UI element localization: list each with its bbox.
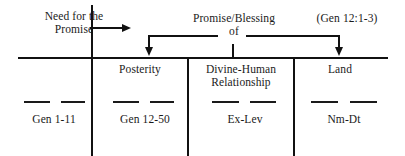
label-gen-12-1-3-reference: (Gen 12:1-3) <box>306 12 388 25</box>
dash-col-3-left <box>212 101 239 103</box>
arrow-to-land-head <box>335 47 343 56</box>
dash-col-4-left <box>311 101 338 103</box>
column-code-ex-lev: Ex-Lev <box>204 113 286 126</box>
column-heading-land: Land <box>310 63 370 76</box>
dash-col-1-left <box>24 101 50 103</box>
column-heading-divine-human-relationship: Divine-Human Relationship <box>192 63 290 89</box>
column-code-nm-dt: Nm-Dt <box>304 113 384 126</box>
main-horizontal-axis <box>18 57 388 59</box>
promise-structure-diagram: Need for the Promise Promise/Blessing of… <box>0 0 405 156</box>
dash-col-3-right <box>250 101 276 103</box>
arrow-to-posterity-shaft-horizontal <box>148 35 218 37</box>
column-code-gen-12-50: Gen 12-50 <box>104 113 186 126</box>
column-code-gen-1-11: Gen 1-11 <box>16 113 92 126</box>
arrow-to-land-shaft-horizontal <box>246 35 340 37</box>
column-divider-3 <box>293 57 295 156</box>
arrow-need-to-promise-head <box>122 24 131 32</box>
arrow-need-to-promise-shaft <box>90 27 123 29</box>
label-need-for-the-promise: Need for the Promise <box>26 10 122 36</box>
arrow-to-posterity-head <box>145 47 153 56</box>
column-divider-1 <box>91 5 93 156</box>
label-promise-blessing-of: Promise/Blessing of <box>178 12 290 38</box>
dash-col-2-left <box>113 101 139 103</box>
dash-col-2-right <box>150 101 174 103</box>
dash-col-4-right <box>350 101 377 103</box>
column-heading-posterity: Posterity <box>104 63 176 76</box>
dash-col-1-right <box>61 101 85 103</box>
tick-promise-of <box>232 44 234 58</box>
column-divider-2 <box>187 57 189 156</box>
